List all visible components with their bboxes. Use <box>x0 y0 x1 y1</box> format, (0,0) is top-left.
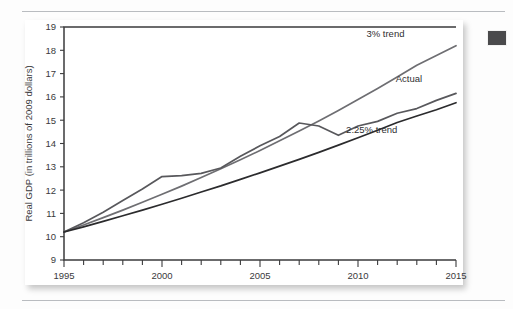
y-tick-label: 18 <box>45 45 56 56</box>
series-label-actual: Actual <box>396 73 422 84</box>
y-tick-label: 15 <box>45 115 56 126</box>
x-tick-label: 2015 <box>445 270 466 281</box>
y-tick-label: 11 <box>46 208 56 219</box>
y-tick-label: 16 <box>45 91 56 102</box>
page-rule-bottom <box>22 300 505 301</box>
y-tick-label: 9 <box>51 254 56 265</box>
series-label-3-trend: 3% trend <box>366 28 404 39</box>
y-tick-label: 17 <box>45 68 56 79</box>
page-edge-mark <box>487 30 507 46</box>
y-tick-label: 19 <box>45 21 56 32</box>
series-line-actual <box>64 93 456 232</box>
y-tick-label: 10 <box>45 231 56 242</box>
axis-lines <box>64 27 456 260</box>
page-rule-top <box>22 11 505 12</box>
page-background: 910111213141516171819 199520002005201020… <box>0 0 513 309</box>
chart-svg: 910111213141516171819 199520002005201020… <box>18 16 478 292</box>
x-tick-label: 1995 <box>53 270 74 281</box>
gdp-trend-line-chart: 910111213141516171819 199520002005201020… <box>18 16 478 292</box>
y-tick-label: 14 <box>45 138 56 149</box>
y-tick-label: 12 <box>45 185 56 196</box>
plot-frame <box>64 27 456 260</box>
x-tick-label: 2005 <box>249 270 270 281</box>
series-line-2-25-trend <box>64 103 456 232</box>
x-tick-label: 2000 <box>151 270 172 281</box>
x-tick-label: 2010 <box>347 270 368 281</box>
y-axis-ticks: 910111213141516171819 <box>45 21 64 265</box>
x-axis-ticks: 19952000200520102015 <box>53 260 466 281</box>
series-label-2-25-trend: 2.25% trend <box>346 124 397 135</box>
y-tick-label: 13 <box>45 161 56 172</box>
y-axis-title: Real GDP (in trillions of 2009 dollars) <box>23 65 34 221</box>
x-axis-title: Years <box>248 289 272 292</box>
